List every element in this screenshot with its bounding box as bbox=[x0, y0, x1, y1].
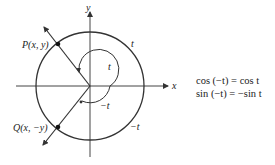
inner-arc-label-t: t bbox=[108, 61, 111, 72]
point-q bbox=[56, 125, 61, 130]
point-q-label: Q(x, −y) bbox=[13, 122, 48, 134]
sin-identity: sin (−t) = −sin t bbox=[196, 87, 262, 100]
outer-arc-label-t: t bbox=[131, 38, 134, 49]
y-axis-label: y bbox=[85, 2, 91, 13]
inner-arc-t bbox=[79, 49, 119, 86]
point-p-label: P(x, y) bbox=[21, 39, 49, 51]
inner-arc-neg-t-endpoint bbox=[80, 101, 83, 104]
cos-identity: cos (−t) = cos t bbox=[196, 74, 262, 87]
inner-arc-label-neg-t: −t bbox=[100, 100, 110, 111]
ray-to-q bbox=[43, 86, 90, 145]
point-p bbox=[56, 42, 61, 47]
outer-arc-label-neg-t: −t bbox=[130, 121, 140, 132]
x-axis-label: x bbox=[171, 80, 177, 91]
unit-circle-diagram: y x P(x, y) Q(x, −y) t −t t −t cos (−t) … bbox=[0, 0, 275, 165]
identity-formulas: cos (−t) = cos t sin (−t) = −sin t bbox=[196, 74, 262, 100]
